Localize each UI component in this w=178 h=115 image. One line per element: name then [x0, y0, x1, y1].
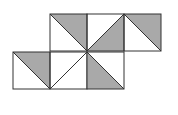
cell-bottom-2: [50, 52, 87, 89]
cell-bottom-3: [87, 52, 124, 89]
cell-top-1: [50, 14, 87, 51]
square-net-diagram: [0, 0, 178, 115]
cell-bottom-1: [13, 52, 50, 89]
diagonal-line: [50, 52, 87, 89]
cell-top-2: [87, 14, 124, 51]
cell-top-3: [124, 14, 161, 51]
